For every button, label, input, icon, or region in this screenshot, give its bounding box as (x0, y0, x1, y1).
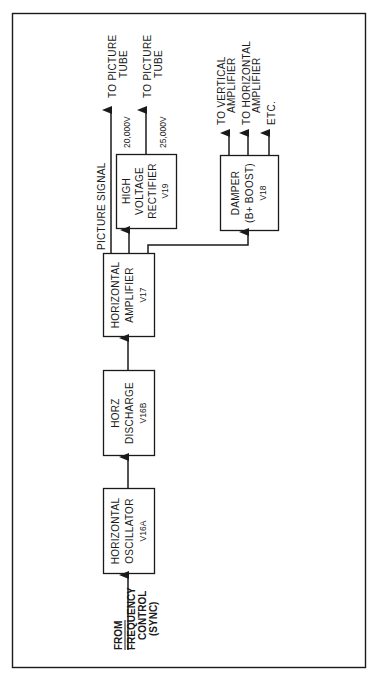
block-horz-discharge: HORZ DISCHARGE V16B (104, 371, 155, 456)
damper-line-1: DAMPER (230, 171, 241, 216)
hvr-line-1: HIGH (121, 178, 132, 204)
amp-line-2: AMPLIFIER (124, 267, 135, 323)
damper-line-2: (B+ BOOST) (244, 163, 255, 223)
voltage-20000-label: 20,000V (122, 116, 132, 148)
svg-text:20,000V: 20,000V (122, 116, 132, 148)
hvr-line-2: VOLTAGE (134, 167, 145, 215)
block-high-voltage-rectifier: HIGH VOLTAGE RECTIFIER V19 (117, 155, 177, 229)
osc-line-2: OSCILLATOR (124, 498, 135, 563)
svg-text:TO PICTURE: TO PICTURE (107, 35, 118, 98)
svg-text:TUBE: TUBE (118, 50, 129, 78)
input-line-1: FROM (113, 621, 124, 650)
svg-text:AMPLIFIER: AMPLIFIER (226, 58, 237, 114)
amp-line-3: V17 (138, 287, 148, 302)
hvr-line-3: RECTIFIER (147, 163, 158, 218)
diagram-frame (13, 14, 366, 668)
block-damper: DAMPER (B+ BOOST) V18 (221, 156, 279, 231)
osc-line-1: HORIZONTAL (110, 498, 121, 565)
block-diagram: HORIZONTAL OSCILLATOR V16A HORZ DISCHARG… (0, 0, 371, 683)
output-etc: ETC. (266, 101, 277, 125)
hvr-line-4: V19 (160, 183, 170, 198)
input-label: FROM FREQUENCY CONTROL (SYNC) (113, 587, 159, 650)
output-picture-tube-2: TO PICTURE TUBE (142, 35, 164, 98)
svg-text:ETC.: ETC. (266, 101, 277, 125)
damper-line-3: V18 (258, 185, 268, 200)
discharge-line-1: HORZ (110, 398, 121, 428)
svg-text:TO PICTURE: TO PICTURE (142, 35, 153, 98)
block-horizontal-oscillator: HORIZONTAL OSCILLATOR V16A (104, 489, 155, 574)
svg-text:TUBE: TUBE (153, 50, 164, 78)
svg-text:AMPLIFIER: AMPLIFIER (251, 58, 262, 114)
output-picture-tube-1: TO PICTURE TUBE (107, 35, 129, 98)
input-line-3: CONTROL (137, 591, 148, 640)
discharge-line-2: DISCHARGE (124, 382, 135, 444)
output-horizontal-amplifier: TO HORIZONTAL AMPLIFIER (241, 41, 262, 125)
picture-signal-label: PICTURE SIGNAL (96, 162, 107, 250)
input-line-2: FREQUENCY (126, 587, 137, 650)
amp-line-1: HORIZONTAL (110, 262, 121, 329)
voltage-25000-label: 25,000V (158, 116, 168, 148)
input-line-4: (SYNC) (148, 602, 159, 636)
arrow-amplifier-to-damper (148, 232, 248, 253)
svg-text:25,000V: 25,000V (158, 116, 168, 148)
output-vertical-amplifier: TO VERTICAL AMPLIFIER (216, 56, 237, 125)
block-horizontal-amplifier: HORIZONTAL AMPLIFIER V17 (104, 254, 155, 337)
osc-line-3: V16A (138, 520, 148, 541)
discharge-line-3: V16B (138, 402, 148, 423)
svg-text:PICTURE SIGNAL: PICTURE SIGNAL (96, 162, 107, 250)
